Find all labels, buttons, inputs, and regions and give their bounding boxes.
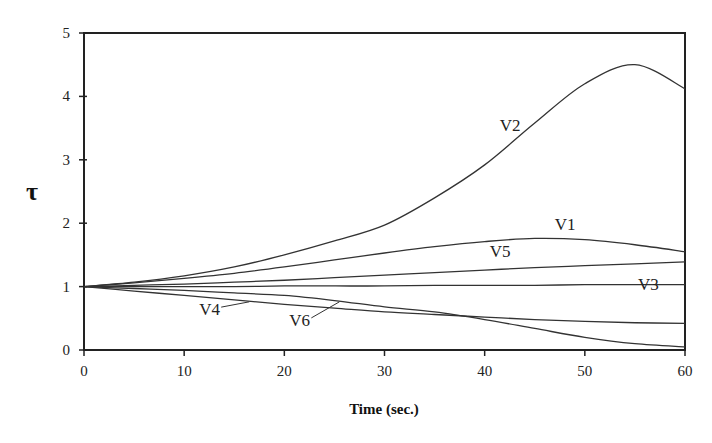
series-line-v1 (84, 238, 685, 286)
series-line-v6 (84, 287, 685, 347)
x-tick-label: 40 (477, 363, 492, 379)
series-line-v5 (84, 262, 685, 287)
x-tick-label: 0 (80, 363, 88, 379)
y-tick-label: 3 (63, 152, 71, 168)
series-label-v6: V6 (289, 311, 310, 330)
y-axis-title: τ (26, 177, 38, 206)
y-tick-label: 2 (63, 215, 71, 231)
plot-frame (84, 33, 685, 350)
x-tick-label: 50 (577, 363, 592, 379)
series-label-v2: V2 (500, 116, 521, 135)
x-tick-label: 30 (377, 363, 392, 379)
series-lines (84, 65, 685, 347)
line-chart: 012345 0102030405060 V1V2V3V4V5V6 Time (… (0, 0, 712, 443)
plot-border (84, 33, 685, 350)
series-label-v3: V3 (638, 275, 659, 294)
x-tick-label: 20 (277, 363, 292, 379)
series-annotations: V1V2V3V4V5V6 (199, 116, 659, 330)
y-tick-label: 4 (63, 88, 71, 104)
leader-line (221, 302, 249, 307)
y-tick-label: 5 (63, 25, 71, 41)
y-tick-label: 0 (63, 342, 71, 358)
leader-line (311, 302, 339, 318)
x-axis-title: Time (sec.) (349, 401, 419, 418)
x-tick-label: 10 (177, 363, 192, 379)
x-tick-label: 60 (678, 363, 693, 379)
series-line-v4 (84, 287, 685, 324)
series-label-v5: V5 (490, 242, 511, 261)
series-label-v4: V4 (199, 300, 220, 319)
x-axis: 0102030405060 (80, 350, 692, 379)
y-tick-label: 1 (63, 279, 71, 295)
series-label-v1: V1 (555, 215, 576, 234)
